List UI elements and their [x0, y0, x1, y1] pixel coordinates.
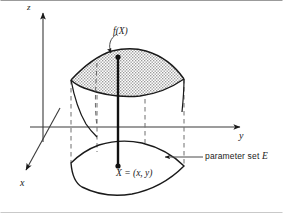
parameter-set-symbol: E	[262, 151, 268, 161]
z-axis-label: z	[27, 3, 31, 12]
parameter-set-label-text: parameter set	[205, 151, 259, 161]
surface-patch-group	[71, 49, 184, 137]
figure-canvas	[0, 0, 283, 213]
figure-container: z y x f(X) X = (x, y) parameter set E	[0, 0, 283, 213]
y-axis-label: y	[239, 131, 243, 141]
x-axis-label: x	[20, 178, 24, 188]
parameter-set-label: parameter set E	[205, 152, 268, 162]
function-value-label: f(X)	[113, 27, 128, 37]
point-coordinates-label: X = (x, y)	[116, 169, 152, 179]
surface-point-marker	[115, 54, 120, 59]
